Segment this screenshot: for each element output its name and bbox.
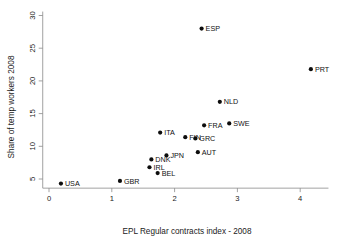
data-point-label: SWE <box>233 119 250 128</box>
data-point-label: ESP <box>206 24 221 33</box>
data-point-marker <box>149 157 153 161</box>
data-point: IRL <box>147 163 164 172</box>
data-points-group: USAGBRBELIRLDNKJPNAUTGRCFINITAFRASWENLDP… <box>59 24 330 188</box>
y-tick-label: 20 <box>28 77 37 85</box>
x-tick-label: 4 <box>298 194 302 203</box>
data-point: AUT <box>196 148 217 157</box>
data-point-label: DNK <box>155 155 170 164</box>
y-axis-ticks: 51015202530 <box>28 11 43 181</box>
data-point-marker <box>164 153 168 157</box>
data-point-marker <box>227 121 231 125</box>
data-point-marker <box>196 150 200 154</box>
data-point-label: FIN <box>189 133 201 142</box>
scatter-chart-container: 01234 51015202530 USAGBRBELIRLDNKJPNAUTG… <box>0 0 338 243</box>
data-point-marker <box>218 100 222 104</box>
data-point: GBR <box>118 177 140 186</box>
data-point-marker <box>147 165 151 169</box>
data-point-label: USA <box>65 179 80 188</box>
y-tick-label: 15 <box>28 109 37 117</box>
axes-group <box>43 12 329 189</box>
data-point-label: JPN <box>170 151 184 160</box>
x-tick-label: 1 <box>110 194 114 203</box>
data-point-label: IRL <box>153 163 164 172</box>
data-point: ITA <box>158 128 175 137</box>
data-point-marker <box>202 123 206 127</box>
data-point-label: GRC <box>199 134 215 143</box>
x-tick-label: 2 <box>172 194 176 203</box>
data-point-marker <box>309 67 313 71</box>
y-tick-label: 30 <box>28 11 37 19</box>
y-tick-label: 25 <box>28 44 37 52</box>
data-point-marker <box>118 179 122 183</box>
data-point-label: PRT <box>315 65 330 74</box>
data-point: USA <box>59 179 80 188</box>
x-axis-title: EPL Regular contracts index - 2008 <box>123 227 252 236</box>
data-point-label: ITA <box>164 128 175 137</box>
data-point-label: FRA <box>208 121 223 130</box>
data-point: ESP <box>200 24 221 33</box>
y-tick-label: 5 <box>28 177 37 181</box>
data-point-label: NLD <box>224 97 238 106</box>
data-point: FRA <box>202 121 223 130</box>
data-point: PRT <box>309 65 330 74</box>
x-tick-label: 0 <box>47 194 51 203</box>
x-tick-label: 3 <box>235 194 239 203</box>
data-point-label: GBR <box>124 177 140 186</box>
data-point-marker <box>59 181 63 185</box>
data-point-marker <box>183 135 187 139</box>
data-point: SWE <box>227 119 250 128</box>
x-axis-ticks: 01234 <box>47 188 302 203</box>
scatter-plot: 01234 51015202530 USAGBRBELIRLDNKJPNAUTG… <box>0 0 338 243</box>
data-point-label: AUT <box>202 148 217 157</box>
y-tick-label: 10 <box>28 142 37 150</box>
y-axis-title: Share of temp workers 2008 <box>7 55 16 158</box>
data-point: NLD <box>218 97 238 106</box>
data-point-marker <box>200 26 204 30</box>
data-point-marker <box>158 130 162 134</box>
data-point: FIN <box>183 133 201 142</box>
